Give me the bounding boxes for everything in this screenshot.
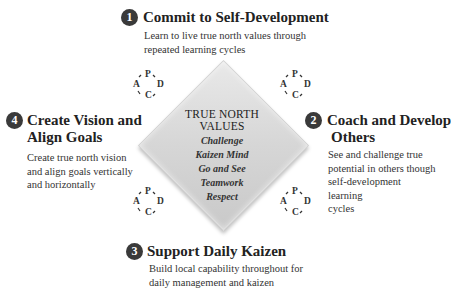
step-4-title: Create Vision and Align Goals [27, 112, 142, 146]
pdca-cycle-icon: P D C A [133, 188, 163, 218]
step-1-title: Commit to Self-Development [143, 9, 329, 26]
step-1-description: Learn to live true north values through … [144, 29, 306, 56]
pdca-cycle-icon: P D C A [280, 188, 310, 218]
pdca-d: D [157, 79, 164, 89]
step-2-title-line: Others [327, 129, 451, 146]
step-2-title-line: Coach and Develop [327, 112, 451, 129]
pdca-cycle-icon: P D C A [280, 71, 310, 101]
value-challenge: Challenge [172, 134, 272, 148]
step-2-badge: 2 [305, 112, 322, 129]
pdca-p: P [292, 186, 298, 196]
step-3-title: Support Daily Kaizen [147, 243, 286, 260]
step-2-desc-line: self-development learning [328, 175, 436, 202]
step-1-desc-line: Learn to live true north values through [144, 29, 306, 43]
pdca-cycle-icon: P D C A [133, 71, 163, 101]
true-north-values: TRUE NORTH VALUES Challenge Kaizen Mind … [172, 108, 272, 204]
pdca-p: P [145, 186, 151, 196]
step-4-title-line: Create Vision and [27, 112, 142, 129]
pdca-c: C [145, 207, 152, 217]
step-4-description: Create true north vision and align goals… [27, 151, 133, 192]
center-title: VALUES [172, 120, 272, 132]
step-3-badge: 3 [126, 243, 143, 260]
pdca-c: C [145, 90, 152, 100]
value-teamwork: Teamwork [172, 176, 272, 190]
pdca-d: D [304, 79, 311, 89]
value-go-and-see: Go and See [172, 162, 272, 176]
step-1-desc-line: repeated learning cycles [144, 43, 306, 57]
step-2-description: See and challenge true potential in othe… [328, 148, 436, 216]
center-title: TRUE NORTH [172, 108, 272, 120]
pdca-d: D [157, 196, 164, 206]
step-2-desc-line: potential in others though [328, 162, 436, 176]
pdca-c: C [292, 90, 299, 100]
value-respect: Respect [172, 190, 272, 204]
step-3-desc-line: Build local capability throughout for [149, 262, 303, 276]
pdca-c: C [292, 207, 299, 217]
step-4-badge: 4 [6, 112, 23, 129]
pdca-d: D [304, 196, 311, 206]
step-2-desc-line: cycles [328, 202, 436, 216]
pdca-a: A [133, 79, 140, 89]
step-4-desc-line: and align goals vertically [27, 165, 133, 179]
pdca-p: P [292, 69, 298, 79]
step-3-desc-line: daily management and kaizen [149, 276, 303, 290]
step-4-title-line: Align Goals [27, 129, 142, 146]
value-kaizen-mind: Kaizen Mind [172, 148, 272, 162]
step-4-desc-line: and horizontally [27, 178, 133, 192]
step-4-desc-line: Create true north vision [27, 151, 133, 165]
pdca-a: A [280, 196, 287, 206]
pdca-a: A [133, 196, 140, 206]
step-1-badge: 1 [121, 9, 138, 26]
step-2-title: Coach and Develop Others [327, 112, 451, 146]
pdca-p: P [145, 69, 151, 79]
step-3-description: Build local capability throughout for da… [149, 262, 303, 289]
pdca-a: A [280, 79, 287, 89]
step-2-desc-line: See and challenge true [328, 148, 436, 162]
